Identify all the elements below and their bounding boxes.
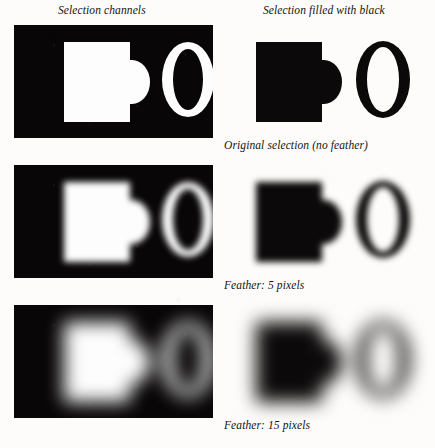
selection-filled-no-feather — [248, 25, 428, 138]
o-letter — [356, 41, 410, 118]
selection-filled-feather-15 — [248, 305, 428, 418]
feather-comparison-figure: Selection channels Selection filled with… — [0, 0, 435, 448]
o-letter — [162, 182, 213, 257]
caption-no-feather: Original selection (no feather) — [224, 139, 368, 151]
column-heading-selection-filled: Selection filled with black — [263, 4, 385, 16]
caption-feather-5: Feather: 5 pixels — [224, 279, 304, 291]
d-shape — [64, 42, 150, 122]
selection-channel-feather-5 — [14, 165, 213, 278]
d-shape-bulb — [306, 60, 342, 104]
d-shape — [256, 322, 342, 402]
o-letter — [356, 321, 410, 398]
caption-feather-15: Feather: 15 pixels — [224, 419, 310, 431]
d-shape — [256, 42, 342, 122]
d-shape — [256, 182, 342, 262]
o-letter — [356, 181, 410, 258]
o-letter — [162, 322, 213, 397]
d-shape-bulb — [306, 200, 342, 244]
selection-channel-no-feather — [14, 25, 213, 138]
selection-channel-feather-15 — [14, 305, 213, 418]
d-shape-bulb — [114, 60, 150, 104]
column-heading-selection-channels: Selection channels — [58, 4, 146, 16]
d-shape-bulb — [114, 340, 150, 384]
o-letter — [162, 42, 213, 117]
d-shape-bulb — [114, 200, 150, 244]
d-shape — [64, 182, 150, 262]
d-shape — [64, 322, 150, 402]
selection-filled-feather-5 — [248, 165, 428, 278]
d-shape-bulb — [306, 340, 342, 384]
